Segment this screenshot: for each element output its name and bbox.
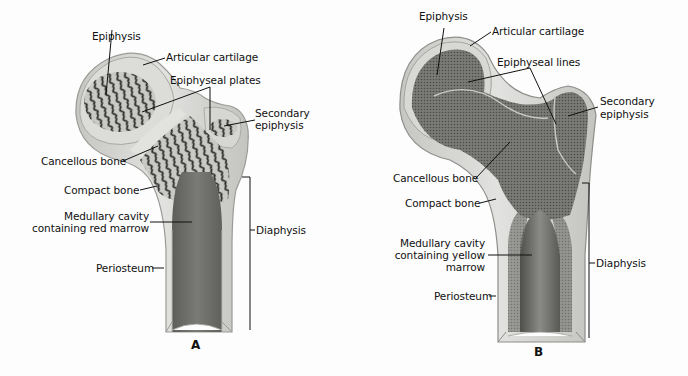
label-b-epiphysis: Epiphysis: [419, 10, 468, 22]
label-b-medullary-cavity-line2: containing yellow: [395, 249, 485, 261]
label-a-secondary-epiphysis-line1: Secondary: [255, 107, 310, 119]
panel-letter-a: A: [191, 338, 200, 352]
label-a-secondary-epiphysis-line2: epiphysis: [255, 119, 304, 131]
label-a-cancellous-bone: Cancellous bone: [41, 155, 126, 167]
label-b-medullary-cavity-line3: marrow: [446, 261, 485, 273]
label-b-cancellous-bone: Cancellous bone: [393, 172, 478, 184]
label-b-medullary-cavity-line1: Medullary cavity: [400, 237, 485, 249]
label-a-epiphyseal-plates: Epiphyseal plates: [170, 74, 261, 86]
panel-letter-b: B: [534, 345, 543, 359]
label-a-periosteum: Periosteum: [96, 262, 154, 274]
label-b-articular-cartilage: Articular cartilage: [492, 25, 584, 37]
label-b-periosteum: Periosteum: [434, 290, 492, 302]
label-a-medullary-cavity-line2: containing red marrow: [32, 222, 149, 234]
label-b-secondary-epiphysis-line1: Secondary: [600, 95, 655, 107]
label-b-compact-bone: Compact bone: [405, 197, 480, 209]
label-a-epiphysis: Epiphysis: [92, 30, 141, 42]
label-a-medullary-cavity-line1: Medullary cavity: [64, 210, 149, 222]
label-b-diaphysis: Diaphysis: [596, 257, 646, 269]
label-a-diaphysis: Diaphysis: [256, 224, 306, 236]
label-b-secondary-epiphysis-line2: epiphysis: [600, 108, 649, 120]
label-a-articular-cartilage: Articular cartilage: [166, 51, 258, 63]
label-a-compact-bone: Compact bone: [64, 184, 139, 196]
label-b-epiphyseal-lines: Epiphyseal lines: [497, 56, 580, 68]
bone-b: [400, 37, 596, 342]
